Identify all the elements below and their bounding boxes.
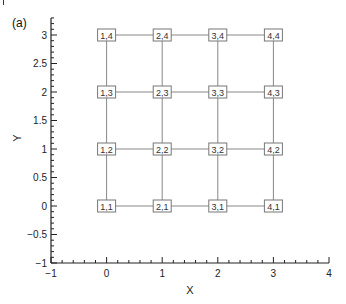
x-tick-label: 1 bbox=[159, 268, 165, 279]
grid-node: 3,4 bbox=[209, 29, 227, 41]
y-tick-label: 2.5 bbox=[33, 58, 47, 69]
node-label: 4,2 bbox=[267, 145, 280, 155]
y-tick-label: 3 bbox=[41, 30, 47, 41]
node-label: 2,4 bbox=[156, 31, 169, 41]
y-tick-label: 1.5 bbox=[33, 115, 47, 126]
y-tick-label: 2 bbox=[41, 87, 47, 98]
chart: (a) −101234−1−0.500.511.522.53 1,12,13,1… bbox=[0, 0, 346, 304]
node-label: 3,2 bbox=[212, 145, 225, 155]
node-label: 3,4 bbox=[212, 31, 225, 41]
node-label: 3,1 bbox=[212, 202, 225, 212]
node-label: 1,2 bbox=[100, 145, 113, 155]
x-tick-label: 0 bbox=[104, 268, 110, 279]
x-tick-label: 3 bbox=[271, 268, 277, 279]
grid-node: 1,4 bbox=[98, 29, 116, 41]
node-label: 1,4 bbox=[100, 31, 113, 41]
node-label: 2,1 bbox=[156, 202, 169, 212]
grid-node: 2,3 bbox=[153, 86, 171, 98]
node-label: 4,1 bbox=[267, 202, 280, 212]
y-tick-label: 1 bbox=[41, 144, 47, 155]
grid-node: 1,1 bbox=[98, 200, 116, 212]
node-label: 1,1 bbox=[100, 202, 113, 212]
grid-node: 1,3 bbox=[98, 86, 116, 98]
grid-node: 3,2 bbox=[209, 143, 227, 155]
x-tick-label: −1 bbox=[45, 268, 57, 279]
node-label: 3,3 bbox=[212, 88, 225, 98]
x-axis-title: X bbox=[186, 284, 194, 296]
grid-node: 1,2 bbox=[98, 143, 116, 155]
node-label: 2,3 bbox=[156, 88, 169, 98]
grid-nodes: 1,12,13,14,11,22,23,24,21,32,33,34,31,42… bbox=[98, 29, 283, 212]
grid-node: 2,1 bbox=[153, 200, 171, 212]
y-tick-label: −0.5 bbox=[27, 229, 47, 240]
panel-label: (a) bbox=[12, 16, 27, 30]
node-label: 2,2 bbox=[156, 145, 169, 155]
x-tick-label: 2 bbox=[215, 268, 221, 279]
grid-node: 3,3 bbox=[209, 86, 227, 98]
grid-connections bbox=[107, 35, 274, 206]
y-tick-label: −1 bbox=[36, 258, 48, 269]
node-label: 4,3 bbox=[267, 88, 280, 98]
grid-node: 2,4 bbox=[153, 29, 171, 41]
grid-node: 4,1 bbox=[264, 200, 282, 212]
y-tick-label: 0.5 bbox=[33, 172, 47, 183]
grid-node: 4,2 bbox=[264, 143, 282, 155]
grid-node: 3,1 bbox=[209, 200, 227, 212]
grid-node: 4,4 bbox=[264, 29, 282, 41]
x-tick-label: 4 bbox=[326, 268, 332, 279]
node-label: 1,3 bbox=[100, 88, 113, 98]
axes: −101234−1−0.500.511.522.53 bbox=[27, 18, 332, 279]
y-axis-title: Y bbox=[11, 134, 23, 142]
grid-node: 4,3 bbox=[264, 86, 282, 98]
y-tick-label: 0 bbox=[41, 201, 47, 212]
grid-node: 2,2 bbox=[153, 143, 171, 155]
node-label: 4,4 bbox=[267, 31, 280, 41]
